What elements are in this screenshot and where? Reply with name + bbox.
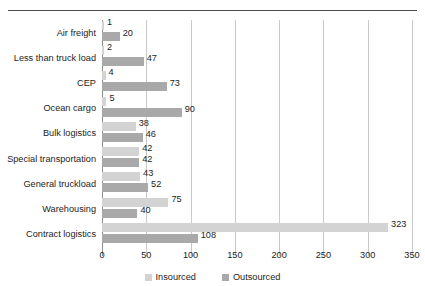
x-tick-250: 250 [316, 250, 331, 260]
bar-insourced [102, 198, 168, 207]
bar-insourced [102, 223, 388, 232]
category-label: Bulk logistics [43, 128, 96, 138]
bar-outsourced [102, 183, 148, 192]
bar-outsourced [102, 158, 139, 167]
insourced-swatch [145, 274, 152, 281]
value-label-outsourced: 46 [146, 130, 156, 139]
value-label-outsourced: 73 [170, 79, 180, 88]
value-label-insourced: 75 [171, 195, 181, 204]
bar-outsourced [102, 133, 143, 142]
bar-outsourced [102, 234, 198, 243]
category-label: General truckload [23, 179, 96, 189]
x-axis-tick-labels: 050100150200250300350 [102, 250, 412, 264]
value-label-insourced: 5 [109, 94, 114, 103]
legend-label: Insourced [156, 272, 196, 282]
bar-insourced [102, 97, 106, 106]
category-label: Contract logistics [26, 229, 96, 239]
bar-outsourced [102, 57, 144, 66]
legend-item-outsourced[interactable]: Outsourced [222, 272, 281, 282]
bar-row: Warehousing7540 [102, 197, 412, 222]
value-label-insourced: 2 [107, 43, 112, 52]
legend-label: Outsourced [233, 272, 281, 282]
value-label-insourced: 43 [143, 169, 153, 178]
x-tick-50: 50 [141, 250, 151, 260]
value-label-outsourced: 108 [201, 231, 216, 240]
value-label-outsourced: 40 [140, 206, 150, 215]
bar-rows: Air freight120Less than truck load247CEP… [102, 20, 412, 247]
bar-outsourced [102, 209, 137, 218]
value-label-insourced: 4 [109, 68, 114, 77]
value-label-outsourced: 20 [123, 29, 133, 38]
value-label-insourced: 323 [391, 220, 406, 229]
top-divider-rule [8, 10, 417, 11]
category-label: Less than truck load [14, 53, 96, 63]
bar-outsourced [102, 82, 167, 91]
bar-row: CEP473 [102, 70, 412, 95]
category-label: Special transportation [7, 154, 96, 164]
bar-insourced [102, 147, 139, 156]
bar-row: Less than truck load247 [102, 45, 412, 70]
bar-insourced [102, 122, 136, 131]
bar-row: General truckload4352 [102, 171, 412, 196]
plot-area: Air freight120Less than truck load247CEP… [102, 20, 412, 247]
value-label-outsourced: 42 [142, 155, 152, 164]
bar-insourced [102, 46, 104, 55]
value-label-outsourced: 90 [185, 105, 195, 114]
bar-outsourced [102, 32, 120, 41]
x-tick-0: 0 [99, 250, 104, 260]
x-tick-300: 300 [360, 250, 375, 260]
x-tick-150: 150 [227, 250, 242, 260]
value-label-outsourced: 52 [151, 180, 161, 189]
value-label-insourced: 42 [142, 144, 152, 153]
chart-legend: InsourcedOutsourced [0, 272, 425, 282]
category-label: Ocean cargo [43, 103, 96, 113]
category-label: CEP [77, 78, 96, 88]
gridline-350 [412, 20, 413, 256]
category-label: Air freight [57, 28, 96, 38]
category-label: Warehousing [42, 204, 96, 214]
bar-insourced [102, 21, 104, 30]
bar-chart: Air freight120Less than truck load247CEP… [0, 0, 425, 286]
legend-item-insourced[interactable]: Insourced [145, 272, 196, 282]
bar-row: Contract logistics323108 [102, 222, 412, 247]
value-label-insourced: 1 [107, 18, 112, 27]
bar-insourced [102, 172, 140, 181]
bar-outsourced [102, 108, 182, 117]
value-label-outsourced: 47 [147, 54, 157, 63]
outsourced-swatch [222, 274, 229, 281]
x-tick-200: 200 [271, 250, 286, 260]
bar-row: Air freight120 [102, 20, 412, 45]
x-tick-100: 100 [183, 250, 198, 260]
value-label-insourced: 38 [139, 119, 149, 128]
bar-insourced [102, 71, 106, 80]
x-tick-350: 350 [404, 250, 419, 260]
